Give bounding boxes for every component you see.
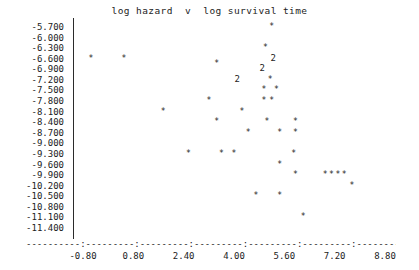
data-point: * <box>87 55 95 63</box>
data-point: * <box>260 86 268 94</box>
data-point: * <box>244 129 252 137</box>
data-point: * <box>159 108 167 116</box>
data-point: * <box>276 192 284 200</box>
data-point: * <box>276 129 284 137</box>
data-point: * <box>276 161 284 169</box>
data-point: * <box>261 44 269 52</box>
data-point: * <box>120 55 128 63</box>
data-point: * <box>230 150 238 158</box>
data-points-layer: ****2*22***************************** <box>0 0 419 270</box>
data-point: * <box>290 150 298 158</box>
data-point: * <box>299 213 307 221</box>
data-point: * <box>291 171 299 179</box>
data-point: * <box>217 150 225 158</box>
data-point: * <box>268 97 276 105</box>
data-point: * <box>266 76 274 84</box>
data-point: * <box>213 118 221 126</box>
data-point: * <box>291 129 299 137</box>
data-point: * <box>291 118 299 126</box>
data-point: * <box>348 182 356 190</box>
scatter-plot: log hazard v log survival time -5.700-6.… <box>0 0 419 270</box>
data-point: * <box>213 60 221 68</box>
data-point: * <box>238 108 246 116</box>
data-point: * <box>268 23 276 31</box>
data-point: * <box>184 150 192 158</box>
data-point: * <box>205 97 213 105</box>
data-point-multi: 2 <box>269 54 277 63</box>
data-point: * <box>260 97 268 105</box>
data-point: * <box>252 192 260 200</box>
data-point-multi: 2 <box>258 64 266 73</box>
data-point: * <box>272 86 280 94</box>
data-point-multi: 2 <box>233 75 241 84</box>
data-point: * <box>340 171 348 179</box>
data-point: * <box>263 118 271 126</box>
